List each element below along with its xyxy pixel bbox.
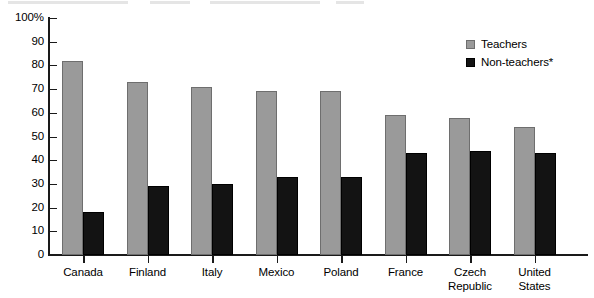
bar-poland-teachers [320,91,341,255]
bar-chart: 0102030405060708090100% CanadaFinlandIta… [0,0,594,298]
y-axis-label: 90 [0,36,44,48]
x-axis-tick [277,256,279,263]
y-axis-label: 60 [0,107,44,119]
y-axis-label: 0 [0,249,44,261]
x-axis-tick [470,256,472,263]
y-axis-label: 10 [0,225,44,237]
y-axis-label: 80 [0,59,44,71]
y-axis-tick [50,255,57,256]
scan-artifact [0,0,594,5]
non-teachers-swatch-icon [466,58,475,67]
bar-canada-non-teachers [83,212,104,255]
bar-finland-teachers [127,82,148,255]
legend-label-teachers: Teachers [481,39,527,51]
bar-czech-republic-teachers [449,118,470,255]
y-axis-label: 30 [0,178,44,190]
x-axis-tick [406,256,408,263]
y-axis-label: 50 [0,131,44,143]
bar-france-teachers [385,115,406,255]
x-axis-label-united-states: UnitedStates [490,266,580,293]
bar-czech-republic-non-teachers [470,151,491,255]
x-axis-tick [148,256,150,263]
bar-poland-non-teachers [341,177,362,255]
bar-france-non-teachers [406,153,427,255]
y-axis-label: 40 [0,154,44,166]
bar-canada-teachers [62,61,83,255]
legend-item-teachers: Teachers [466,37,553,52]
bar-united-states-non-teachers [535,153,556,255]
bar-mexico-non-teachers [277,177,298,255]
chart-legend: Teachers Non-teachers* [466,37,553,73]
bar-italy-teachers [191,87,212,255]
y-axis-label: 20 [0,202,44,214]
x-axis-tick [83,256,85,263]
bar-italy-non-teachers [212,184,233,255]
legend-label-non-teachers: Non-teachers* [481,57,553,69]
y-axis-label: 100% [0,12,44,24]
bar-finland-non-teachers [148,186,169,255]
legend-item-non-teachers: Non-teachers* [466,55,553,70]
y-axis-label: 70 [0,83,44,95]
teachers-swatch-icon [466,40,475,49]
x-axis-tick [535,256,537,263]
bar-mexico-teachers [256,91,277,255]
bar-united-states-teachers [514,127,535,255]
x-axis-tick [212,256,214,263]
x-axis-tick [341,256,343,263]
